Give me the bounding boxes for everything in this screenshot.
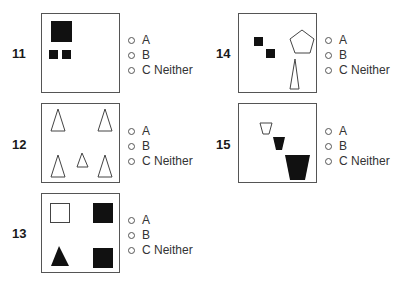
outline-thin-triangle <box>290 59 299 89</box>
small-black-square <box>62 50 71 59</box>
radio-icon[interactable] <box>128 143 135 150</box>
option-b[interactable]: B <box>128 228 193 243</box>
figure-box <box>41 13 120 93</box>
question-number: 11 <box>12 46 26 61</box>
option-b[interactable]: B <box>325 139 390 154</box>
radio-icon[interactable] <box>128 247 135 254</box>
radio-icon[interactable] <box>128 52 135 59</box>
outline-triangle <box>98 109 112 131</box>
option-c[interactable]: C Neither <box>325 154 390 169</box>
option-c[interactable]: C Neither <box>128 63 193 78</box>
radio-icon[interactable] <box>325 158 332 165</box>
black-square <box>93 203 113 223</box>
option-a[interactable]: A <box>128 124 193 139</box>
outline-triangle <box>98 155 112 177</box>
small-black-square <box>254 37 263 46</box>
radio-icon[interactable] <box>325 143 332 150</box>
figure-box <box>238 13 317 93</box>
question-number: 13 <box>12 226 26 241</box>
figure-box <box>238 103 317 183</box>
answer-options: A B C Neither <box>128 33 193 78</box>
option-a[interactable]: A <box>128 33 193 48</box>
figure-shapes <box>239 104 318 184</box>
answer-options: A B C Neither <box>325 33 390 78</box>
option-c[interactable]: C Neither <box>128 243 193 258</box>
option-b[interactable]: B <box>128 139 193 154</box>
radio-icon[interactable] <box>325 128 332 135</box>
option-a[interactable]: A <box>325 33 390 48</box>
radio-icon[interactable] <box>325 52 332 59</box>
outline-triangle <box>51 109 65 131</box>
figure-box <box>41 103 120 183</box>
option-a[interactable]: A <box>128 213 193 228</box>
large-black-square <box>51 21 72 42</box>
option-b[interactable]: B <box>128 48 193 63</box>
figure-shapes <box>42 14 121 94</box>
figure-shapes <box>42 104 121 184</box>
radio-icon[interactable] <box>128 128 135 135</box>
outline-trapezoid <box>260 123 272 134</box>
radio-icon[interactable] <box>325 67 332 74</box>
outline-triangle <box>77 153 88 167</box>
radio-icon[interactable] <box>128 217 135 224</box>
question-number: 15 <box>216 137 230 152</box>
option-c[interactable]: C Neither <box>325 63 390 78</box>
option-b[interactable]: B <box>325 48 390 63</box>
outline-square <box>51 204 70 223</box>
outline-triangle <box>51 155 65 177</box>
option-a[interactable]: A <box>325 124 390 139</box>
question-number: 12 <box>12 137 26 152</box>
radio-icon[interactable] <box>128 158 135 165</box>
figure-box <box>41 193 120 273</box>
figure-shapes <box>239 14 318 94</box>
answer-options: A B C Neither <box>128 213 193 258</box>
large-black-trapezoid <box>285 155 310 180</box>
radio-icon[interactable] <box>128 37 135 44</box>
radio-icon[interactable] <box>128 232 135 239</box>
question-number: 14 <box>216 46 230 61</box>
option-c[interactable]: C Neither <box>128 154 193 169</box>
small-black-square <box>266 49 275 58</box>
small-black-trapezoid <box>273 137 285 150</box>
radio-icon[interactable] <box>128 67 135 74</box>
answer-options: A B C Neither <box>128 124 193 169</box>
black-square <box>93 248 113 268</box>
answer-options: A B C Neither <box>325 124 390 169</box>
outline-pentagon <box>290 30 314 53</box>
radio-icon[interactable] <box>325 37 332 44</box>
small-black-square <box>49 50 58 59</box>
black-triangle <box>51 246 69 266</box>
figure-shapes <box>42 194 121 274</box>
